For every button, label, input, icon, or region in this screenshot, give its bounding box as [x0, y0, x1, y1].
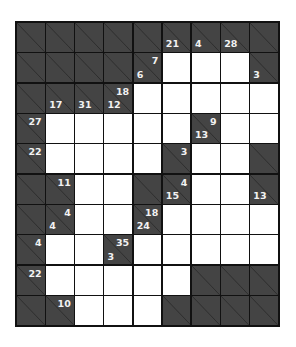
clue-cell: 353 — [104, 235, 132, 264]
entry-cell[interactable] — [221, 144, 249, 173]
entry-cell[interactable] — [221, 84, 249, 113]
diagonal-divider-icon — [17, 53, 45, 82]
entry-cell[interactable] — [104, 266, 132, 295]
block-cell — [17, 296, 45, 325]
block-cell — [250, 144, 278, 173]
across-clue: 7 — [152, 56, 159, 66]
entry-cell[interactable] — [104, 296, 132, 325]
entry-cell[interactable] — [134, 84, 162, 113]
entry-cell[interactable] — [163, 266, 191, 295]
entry-cell[interactable] — [104, 175, 132, 204]
diagonal-divider-icon — [250, 144, 278, 173]
clue-cell: 3 — [250, 53, 278, 82]
across-clue: 27 — [28, 117, 41, 127]
entry-cell[interactable] — [75, 144, 103, 173]
block-cell — [104, 23, 132, 52]
entry-cell[interactable] — [163, 84, 191, 113]
entry-cell[interactable] — [250, 205, 278, 234]
entry-cell[interactable] — [221, 53, 249, 82]
entry-cell[interactable] — [134, 266, 162, 295]
entry-cell[interactable] — [221, 235, 249, 264]
diagonal-divider-icon — [75, 23, 103, 52]
clue-cell: 1812 — [104, 84, 132, 113]
down-clue: 3 — [107, 252, 114, 262]
entry-cell[interactable] — [163, 114, 191, 143]
entry-cell[interactable] — [75, 205, 103, 234]
diagonal-divider-icon — [17, 84, 45, 113]
entry-cell[interactable] — [104, 114, 132, 143]
diagonal-divider-icon — [134, 175, 162, 204]
diagonal-divider-icon — [104, 23, 132, 52]
entry-cell[interactable] — [192, 53, 220, 82]
diagonal-divider-icon — [221, 266, 249, 295]
entry-cell[interactable] — [221, 175, 249, 204]
across-clue: 22 — [28, 147, 41, 157]
diagonal-divider-icon — [192, 296, 220, 325]
block-cell — [75, 23, 103, 52]
entry-cell[interactable] — [46, 235, 74, 264]
block-cell — [17, 23, 45, 52]
across-clue: 18 — [145, 208, 158, 218]
entry-cell[interactable] — [75, 296, 103, 325]
entry-cell[interactable] — [192, 205, 220, 234]
entry-cell[interactable] — [192, 84, 220, 113]
down-clue: 12 — [107, 100, 120, 110]
entry-cell[interactable] — [163, 235, 191, 264]
block-cell — [250, 266, 278, 295]
block-cell — [163, 296, 191, 325]
block-cell — [17, 53, 45, 82]
clue-cell: 3 — [163, 144, 191, 173]
across-clue: 10 — [58, 299, 71, 309]
entry-cell[interactable] — [75, 114, 103, 143]
entry-cell[interactable] — [75, 175, 103, 204]
entry-cell[interactable] — [163, 205, 191, 234]
entry-cell[interactable] — [221, 114, 249, 143]
entry-cell[interactable] — [134, 114, 162, 143]
entry-cell[interactable] — [221, 205, 249, 234]
block-cell — [221, 296, 249, 325]
entry-cell[interactable] — [192, 175, 220, 204]
clue-cell: 415 — [163, 175, 191, 204]
diagonal-divider-icon — [221, 296, 249, 325]
entry-cell[interactable] — [250, 235, 278, 264]
entry-cell[interactable] — [134, 144, 162, 173]
entry-cell[interactable] — [75, 266, 103, 295]
entry-cell[interactable] — [192, 235, 220, 264]
clue-cell: 913 — [192, 114, 220, 143]
clue-cell: 10 — [46, 296, 74, 325]
diagonal-divider-icon — [17, 175, 45, 204]
entry-cell[interactable] — [163, 53, 191, 82]
block-cell — [46, 23, 74, 52]
block-cell — [17, 175, 45, 204]
entry-cell[interactable] — [134, 235, 162, 264]
across-clue: 4 — [181, 178, 188, 188]
entry-cell[interactable] — [46, 266, 74, 295]
across-clue: 22 — [28, 269, 41, 279]
entry-cell[interactable] — [104, 144, 132, 173]
block-cell — [17, 84, 45, 113]
entry-cell[interactable] — [192, 144, 220, 173]
diagonal-divider-icon — [17, 23, 45, 52]
diagonal-divider-icon — [75, 53, 103, 82]
clue-cell: 4 — [17, 235, 45, 264]
entry-cell[interactable] — [46, 114, 74, 143]
entry-cell[interactable] — [104, 205, 132, 234]
entry-cell[interactable] — [250, 114, 278, 143]
block-cell — [134, 23, 162, 52]
clue-cell: 13 — [250, 175, 278, 204]
block-cell — [192, 296, 220, 325]
diagonal-divider-icon — [46, 23, 74, 52]
entry-cell[interactable] — [250, 84, 278, 113]
across-clue: 4 — [64, 208, 71, 218]
entry-cell[interactable] — [75, 235, 103, 264]
entry-cell[interactable] — [46, 144, 74, 173]
across-clue: 9 — [210, 117, 217, 127]
clue-cell: 21 — [163, 23, 191, 52]
entry-cell[interactable] — [134, 296, 162, 325]
diagonal-divider-icon — [104, 53, 132, 82]
down-clue: 21 — [166, 39, 179, 49]
down-clue: 4 — [49, 221, 56, 231]
block-cell — [134, 175, 162, 204]
clue-cell: 4 — [192, 23, 220, 52]
diagonal-divider-icon — [192, 266, 220, 295]
